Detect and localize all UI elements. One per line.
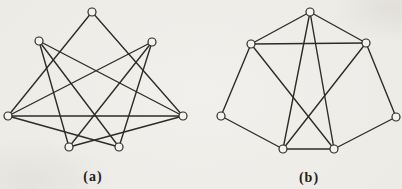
graph-a-edge-upper-right--bottom-right [119,42,152,147]
graph-a-edge-top--left [8,12,92,116]
graph-b-edge-top--upper-right [310,12,366,43]
graph-a-edge-upper-left--bottom-left [39,41,69,147]
graph-b-edge-upper-right--bottom-left [283,43,366,149]
graph-a-vertex-upper-right [148,38,156,46]
graph-a [4,8,187,151]
graph-a-edge-left--upper-right [8,42,152,116]
graph-b-vertex-upper-left [247,40,255,48]
graph-a-vertex-bottom-right [115,143,123,151]
graph-b-edge-upper-right--right [366,43,396,117]
graph-a-vertex-left [4,112,12,120]
graph-a-vertex-bottom-left [65,143,73,151]
graph-b-edge-upper-left--left [221,44,251,116]
graph-a-edge-right--bottom-left [69,116,183,147]
graph-diagrams-canvas [0,0,402,189]
graph-b-edge-upper-left--upper-right [251,43,366,44]
graph-b-edge-top--bottom-right [310,12,334,149]
graph-b-edge-left--bottom-left [221,116,283,149]
graph-b [217,8,400,153]
graph-b-edge-upper-left--bottom-right [251,44,334,149]
graph-a-edge-upper-right--bottom-left [69,42,152,147]
graph-b-vertex-bottom-right [330,145,338,153]
graph-a-vertex-right [179,112,187,120]
graph-a-vertex-top [88,8,96,16]
graph-b-edge-top--bottom-left [283,12,310,149]
graph-b-vertex-top [306,8,314,16]
graph-b-edge-bottom-right--right [334,117,396,149]
figure-label-a: (a) [83,169,102,185]
graph-a-edge-left--bottom-right [8,116,119,147]
graph-b-edge-top--upper-left [251,12,310,44]
graph-a-vertex-upper-left [35,37,43,45]
graph-b-vertex-upper-right [362,39,370,47]
textbook-figure-page: (a) (b) [0,0,402,189]
figure-label-b: (b) [299,170,319,186]
graph-a-edge-right--upper-left [39,41,183,116]
graph-b-vertex-bottom-left [279,145,287,153]
graph-b-vertex-left [217,112,225,120]
graph-b-vertex-right [392,113,400,121]
